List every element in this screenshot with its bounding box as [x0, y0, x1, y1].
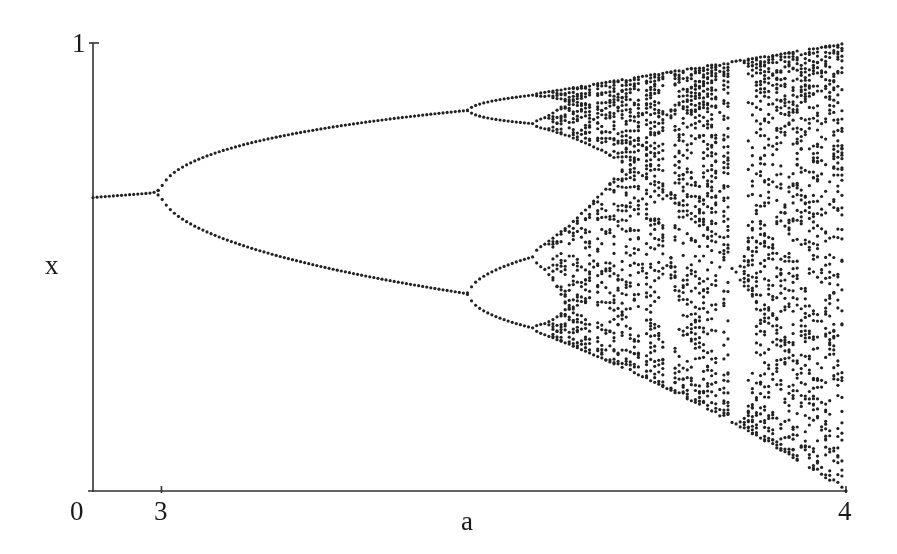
y-tick-1: 1: [72, 30, 86, 57]
bifurcation-plot: [0, 0, 897, 554]
x-tick-3: 3: [154, 498, 168, 525]
origin-label: 0: [70, 498, 84, 525]
y-axis-label: x: [45, 252, 59, 279]
x-tick-4: 4: [838, 498, 852, 525]
x-axis-label: a: [461, 508, 473, 535]
